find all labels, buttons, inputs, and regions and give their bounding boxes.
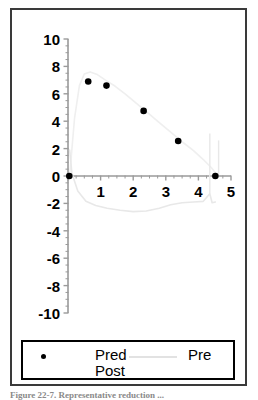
y-axis-tick-label: 8 [52, 59, 60, 74]
gray-line-marker-icon [129, 356, 177, 358]
y-axis-tick-label: 4 [52, 114, 60, 129]
data-point-marker [85, 78, 92, 85]
y-axis-tick-label: -4 [47, 223, 60, 238]
y-axis-tick-label: 0 [52, 169, 60, 184]
series-line [70, 72, 217, 175]
data-point-marker [103, 82, 110, 89]
y-axis-tick-label: -10 [38, 306, 60, 321]
figure-frame: -10-8-6-4-2024681012345 PredPost Pre [10, 8, 247, 386]
x-axis-tick-label: 3 [162, 184, 170, 199]
chart-legend: PredPost Pre [21, 340, 235, 380]
legend-label-line1: Pred [95, 346, 127, 363]
y-axis-tick-label: -8 [47, 278, 60, 293]
y-axis-tick-label: -2 [47, 196, 60, 211]
y-axis-tick-label: -6 [47, 251, 60, 266]
y-axis-tick-label: 2 [52, 141, 60, 156]
data-point-marker [212, 173, 219, 180]
legend-label-line2: Post [95, 362, 125, 379]
y-axis-tick-label: 10 [43, 32, 60, 47]
data-point-marker [66, 173, 73, 180]
y-axis-tick-label: 6 [52, 86, 60, 101]
figure-caption: Figure 22-7. Representative reduction ..… [10, 391, 256, 400]
data-point-marker [175, 138, 182, 145]
x-axis-tick-label: 5 [227, 184, 235, 199]
data-point-marker [140, 108, 147, 115]
legend-label-pred-post: PredPost [95, 347, 127, 379]
x-axis-tick-label: 2 [129, 184, 137, 199]
x-axis-tick-label: 4 [194, 184, 202, 199]
series-line [70, 150, 216, 212]
filled-circle-marker-icon [41, 354, 46, 359]
x-axis-tick-label: 1 [96, 184, 104, 199]
legend-label-pre: Pre [188, 347, 211, 363]
plot-area: -10-8-6-4-2024681012345 [12, 10, 249, 332]
